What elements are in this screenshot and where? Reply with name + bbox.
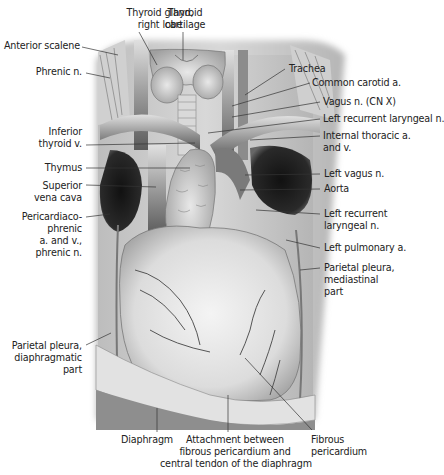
label-inferior-thyroid-v: Inferior thyroid v. [0, 126, 82, 150]
label-fibrous-pericardium: Fibrous pericardium [311, 434, 367, 458]
label-common-carotid-a: Common carotid a. [312, 77, 401, 89]
label-aorta: Aorta [324, 183, 349, 195]
label-parietal-pleura-diaphragmatic: Parietal pleura, diaphragmatic part [0, 340, 82, 376]
label-superior-vena-cava: Superior vena cava [0, 180, 82, 204]
label-pericardiacophrenic: Pericardiaco- phrenic a. and v., phrenic… [0, 211, 82, 259]
label-left-vagus-n: Left vagus n. [324, 168, 384, 180]
label-thyroid-cartilage: Thyroid cartilage [160, 7, 210, 31]
label-parietal-pleura-mediastinal: Parietal pleura, mediastinal part [324, 262, 394, 298]
label-thymus: Thymus [0, 162, 82, 174]
label-vagus-n: Vagus n. (CN X) [323, 96, 396, 108]
label-anterior-scalene: Anterior scalene [0, 40, 80, 52]
label-attachment: Attachment between fibrous pericardium a… [160, 434, 310, 470]
label-left-pulmonary-a: Left pulmonary a. [324, 242, 406, 254]
label-internal-thoracic: Internal thoracic a. and v. [323, 130, 411, 154]
label-left-recurrent-laryngeal-n-lower: Left recurrent laryngeal n. [324, 208, 387, 232]
label-left-recurrent-laryngeal-n-upper: Left recurrent laryngeal n. [323, 113, 444, 125]
label-phrenic-n: Phrenic n. [0, 66, 82, 78]
label-trachea: Trachea [289, 63, 325, 75]
